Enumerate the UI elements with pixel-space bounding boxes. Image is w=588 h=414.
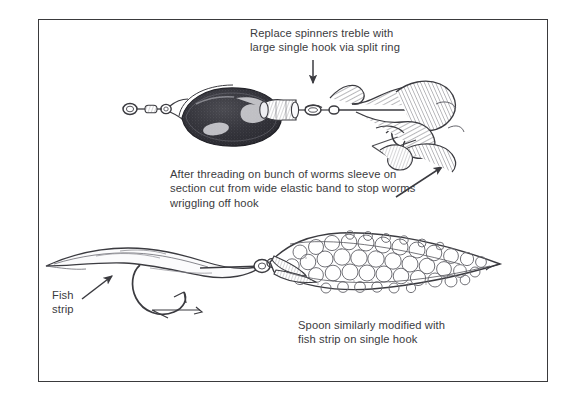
caption-replace-treble-hook: Replace spinners treble with large singl…: [250, 26, 400, 55]
caption-spoon-modified: Spoon similarly modified with fish strip…: [298, 318, 445, 347]
figure-canvas: Replace spinners treble with large singl…: [0, 0, 588, 414]
caption-fish-strip: Fish strip: [52, 288, 74, 316]
caption-worm-elastic-sleeve: After threading on bunch of worms sleeve…: [170, 167, 415, 210]
